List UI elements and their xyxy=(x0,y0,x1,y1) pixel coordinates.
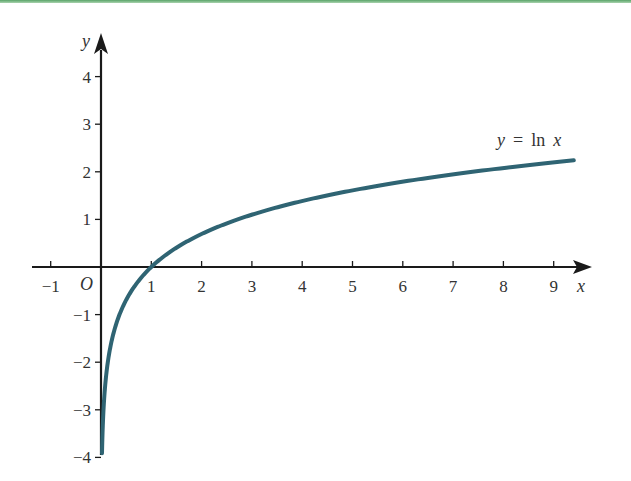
y-tick-label: −3 xyxy=(73,401,91,420)
origin-label: O xyxy=(80,274,93,294)
y-tick-label: −1 xyxy=(73,306,91,325)
y-tick-label: 1 xyxy=(83,210,92,229)
x-tick-label: 2 xyxy=(197,277,206,296)
x-tick-label: 9 xyxy=(549,277,558,296)
x-tick-label: 1 xyxy=(147,277,156,296)
y-tick-label: −4 xyxy=(73,448,92,467)
x-tick-label: 7 xyxy=(449,277,458,296)
y-tick-label: −2 xyxy=(73,353,91,372)
x-axis-label: x xyxy=(576,276,585,296)
y-tick-label: 3 xyxy=(83,115,92,134)
ln-chart: −11234567894321−1−2−3−4 y x O y = ln x xyxy=(0,0,631,481)
curve-equation-label: y = ln x xyxy=(495,130,561,150)
x-tick-label: −1 xyxy=(42,277,60,296)
y-tick-label: 4 xyxy=(83,68,92,87)
axes xyxy=(32,33,592,455)
y-tick-label: 2 xyxy=(83,163,92,182)
x-tick-label: 5 xyxy=(348,277,357,296)
x-tick-label: 8 xyxy=(499,277,508,296)
y-axis-label: y xyxy=(80,31,90,51)
x-tick-label: 6 xyxy=(399,277,408,296)
x-tick-label: 3 xyxy=(248,277,257,296)
x-tick-label: 4 xyxy=(298,277,307,296)
ln-curve xyxy=(102,160,574,453)
